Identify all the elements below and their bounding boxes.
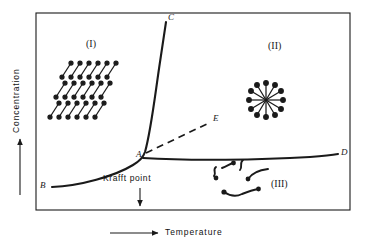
phase-diagram-svg [0,0,374,249]
region-label-iii: (III) [271,179,288,189]
region-i-crystal-lamellae [48,61,118,119]
x-axis-label: Temperature [165,228,223,237]
point-label-c: C [168,13,174,22]
y-axis-label: Concentration [12,68,21,133]
figure-canvas: (I) (II) (III) A B C D E Krafft point Te… [0,0,374,249]
plot-frame [36,13,350,210]
point-label-a: A [136,150,142,159]
curve-dashed-extension [146,122,211,153]
region-ii-micelle [247,81,286,120]
region-iii-monomers [214,160,268,196]
krafft-point-label: Krafft point [103,174,151,183]
region-label-i: (I) [86,39,96,49]
point-label-b: B [40,181,46,190]
region-label-ii: (II) [268,41,281,51]
point-label-d: D [341,148,348,157]
curve-cmc [143,154,338,160]
point-label-e: E [213,114,219,123]
